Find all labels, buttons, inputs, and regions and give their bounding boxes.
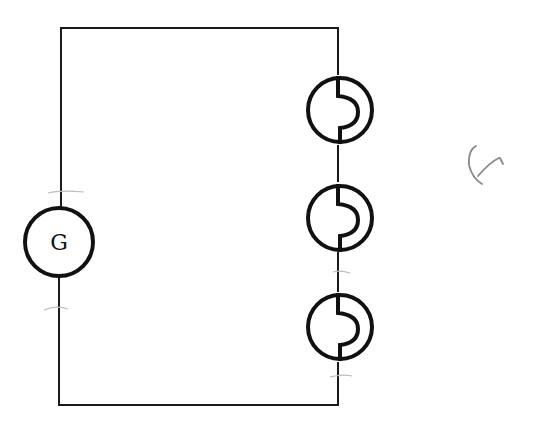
faint-marks	[44, 191, 352, 377]
handwritten-annotation	[469, 146, 503, 184]
lamp-icon	[308, 184, 372, 252]
lamp-2	[308, 184, 372, 252]
generator-label: G	[50, 230, 68, 255]
wire-bottom	[59, 272, 338, 405]
lamp-1	[308, 76, 372, 144]
wire-top	[61, 28, 338, 210]
lamp-3	[308, 293, 372, 361]
lamp-icon	[308, 293, 372, 361]
circuit-diagram: G	[0, 0, 535, 439]
circuit-wires	[59, 28, 338, 405]
lamp-icon	[308, 76, 372, 144]
generator: G	[25, 208, 93, 276]
